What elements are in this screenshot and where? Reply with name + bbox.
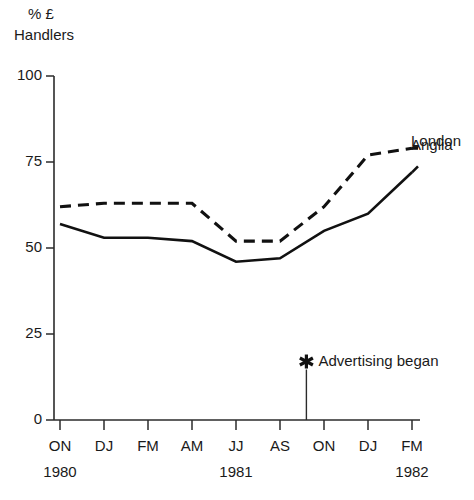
x-tick-label: ON xyxy=(301,437,347,454)
y-tick-label: 75 xyxy=(0,152,42,169)
x-tick-label: AM xyxy=(169,437,215,454)
x-tick-label: AS xyxy=(257,437,303,454)
x-tick-label: FM xyxy=(125,437,171,454)
x-tick-label: FM xyxy=(389,437,435,454)
series-leader-london xyxy=(412,166,418,172)
series-line-london xyxy=(60,172,412,261)
x-tick-label: DJ xyxy=(81,437,127,454)
asterisk-icon xyxy=(300,355,313,369)
x-axis-year-label: 1982 xyxy=(384,463,440,480)
chart-plot-area xyxy=(0,0,474,500)
x-tick-label: JJ xyxy=(213,437,259,454)
y-tick-label: 50 xyxy=(0,238,42,255)
x-axis-year-label: 1981 xyxy=(208,463,264,480)
y-tick-label: 25 xyxy=(0,324,42,341)
chart-series-layer xyxy=(60,148,418,262)
x-axis-ticks xyxy=(60,420,412,430)
y-tick-label: 100 xyxy=(0,66,42,83)
y-tick-label: 0 xyxy=(0,410,42,427)
x-tick-label: DJ xyxy=(345,437,391,454)
chart-annotation-layer xyxy=(300,355,313,420)
x-tick-label: ON xyxy=(37,437,83,454)
series-line-anglia xyxy=(60,148,412,241)
y-axis-ticks xyxy=(46,76,54,420)
advertising-began-label: Advertising began xyxy=(318,352,438,369)
chart-container: % £ Handlers 0255075100 ONDJFMAMJJASONDJ… xyxy=(0,0,474,500)
series-label-london: London xyxy=(411,132,461,149)
x-axis-year-label: 1980 xyxy=(32,463,88,480)
